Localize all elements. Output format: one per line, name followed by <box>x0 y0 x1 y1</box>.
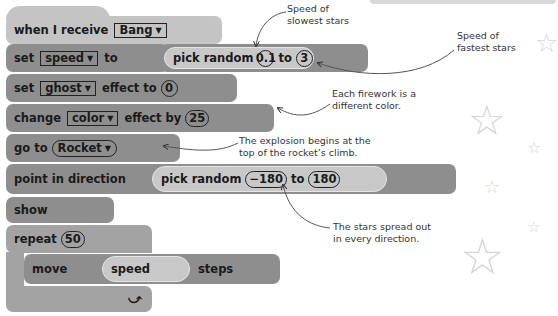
annotation-arrows <box>0 0 556 316</box>
